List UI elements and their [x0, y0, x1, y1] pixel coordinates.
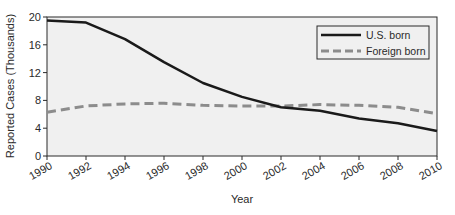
x-tick-label: 2002: [261, 159, 288, 182]
legend-label-us-born: U.S. born: [366, 29, 411, 41]
x-tick-label: 1996: [144, 159, 171, 182]
x-tick-label: 2006: [339, 159, 366, 182]
y-axis-label: Reported Cases (Thousands): [4, 14, 16, 158]
y-tick-label: 12: [29, 67, 41, 79]
y-tick-label: 20: [29, 11, 41, 23]
y-axis-ticks: 048121620: [29, 11, 47, 162]
legend: U.S. born Foreign born: [317, 26, 429, 59]
y-tick-label: 16: [29, 39, 41, 51]
y-tick-label: 0: [35, 150, 41, 162]
y-tick-label: 8: [35, 94, 41, 106]
x-tick-label: 1994: [105, 159, 132, 182]
x-tick-label: 1992: [66, 159, 93, 182]
line-chart: 048121620 199019921994199619982000200220…: [0, 0, 455, 215]
x-axis-ticks: 1990199219941996199820002002200420062008…: [27, 156, 444, 182]
x-tick-label: 1998: [183, 159, 210, 182]
x-tick-label: 2010: [417, 159, 444, 182]
x-axis-label: Year: [231, 193, 254, 205]
x-tick-label: 2000: [222, 159, 249, 182]
legend-label-foreign-born: Foreign born: [366, 45, 426, 57]
x-tick-label: 1990: [27, 159, 54, 182]
x-tick-label: 2008: [378, 159, 405, 182]
x-tick-label: 2004: [300, 159, 327, 182]
y-tick-label: 4: [35, 122, 41, 134]
